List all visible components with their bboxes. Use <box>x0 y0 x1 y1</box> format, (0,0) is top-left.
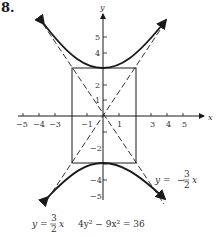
x-axis <box>18 113 204 116</box>
x-tick-label: −5 <box>16 120 28 129</box>
y-tick-label: 4 <box>95 49 100 58</box>
y-axis-label: y <box>99 3 105 12</box>
asymptote-negative-label: y = − 3 2 x <box>154 169 197 190</box>
svg-text:y =: y = <box>154 175 171 185</box>
y-tick-label: −5 <box>90 192 102 201</box>
hyperbola-graph: y x −5 −4 −3 −1 1 3 4 5 5 4 2 1 −2 −4 −5… <box>0 0 216 237</box>
x-tick-label: −4 <box>33 120 45 129</box>
x-axis-label: x <box>208 113 213 122</box>
svg-text:3: 3 <box>184 169 190 179</box>
svg-text:2: 2 <box>184 180 190 190</box>
x-tick-label: 1 <box>117 120 122 129</box>
hyperbola-upper-branch <box>44 20 166 68</box>
y-tick-label: −2 <box>90 144 102 153</box>
x-tick-label: −3 <box>49 120 61 129</box>
svg-text:x: x <box>192 175 197 185</box>
x-tick-label: 3 <box>150 120 155 129</box>
hyperbola-equation: 4y² − 9x² = 36 <box>78 219 145 229</box>
x-tick-label: −1 <box>81 120 93 129</box>
asymptote-positive-label: y = 3 2 x <box>31 213 64 234</box>
y-tick-label: 2 <box>95 81 100 90</box>
x-tick-label: 4 <box>166 120 171 129</box>
svg-text:2: 2 <box>51 224 57 234</box>
x-tick-label: 5 <box>182 120 187 129</box>
hyperbola-lower-branch <box>48 163 165 199</box>
y-tick-label: −4 <box>90 176 102 185</box>
y-axis <box>103 14 107 200</box>
y-tick-label: 1 <box>95 96 100 105</box>
svg-text:y =: y = <box>31 219 48 229</box>
y-tick-label: 5 <box>95 33 100 42</box>
svg-text:3: 3 <box>51 213 57 223</box>
svg-text:x: x <box>59 219 64 229</box>
